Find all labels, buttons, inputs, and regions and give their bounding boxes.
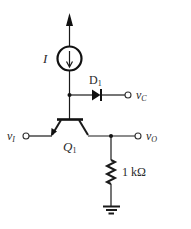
vi-terminal[interactable] bbox=[23, 133, 29, 139]
vc-terminal[interactable] bbox=[125, 92, 131, 98]
vo-terminal[interactable] bbox=[135, 133, 141, 139]
resistor-icon bbox=[107, 160, 115, 184]
diode-label: D1 bbox=[89, 73, 102, 88]
ground-icon bbox=[103, 207, 120, 214]
supply-arrow-up-icon bbox=[66, 13, 73, 46]
diode-icon bbox=[92, 89, 101, 101]
vc-label: vC bbox=[136, 88, 147, 103]
vi-label: vI bbox=[7, 129, 15, 144]
current-source-icon bbox=[58, 47, 82, 71]
circuit-diagram: I D1 vC Q1 vI vO 1 kΩ bbox=[0, 0, 191, 229]
current-source-label: I bbox=[42, 51, 48, 66]
bjt-transistor-icon bbox=[51, 120, 88, 137]
transistor-label: Q1 bbox=[63, 139, 76, 155]
resistor-label: 1 kΩ bbox=[122, 165, 146, 179]
vo-label: vO bbox=[146, 129, 157, 144]
